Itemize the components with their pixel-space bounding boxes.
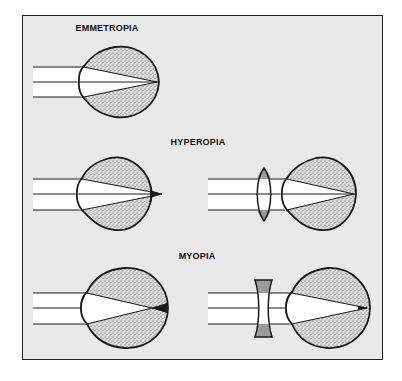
myopia-uncorrected-eye <box>33 268 168 348</box>
myopia-corrected-eye <box>208 268 370 348</box>
hyperopia-uncorrected-eye <box>33 157 162 230</box>
diagram-artwork <box>0 0 402 381</box>
convex-lens-icon <box>257 168 271 221</box>
label-myopia: MYOPIA <box>179 251 216 261</box>
emmetropia-eye <box>33 47 159 118</box>
hyperopia-corrected-eye <box>208 157 356 230</box>
label-hyperopia: HYPEROPIA <box>171 137 226 147</box>
label-emmetropia: EMMETROPIA <box>75 23 138 33</box>
